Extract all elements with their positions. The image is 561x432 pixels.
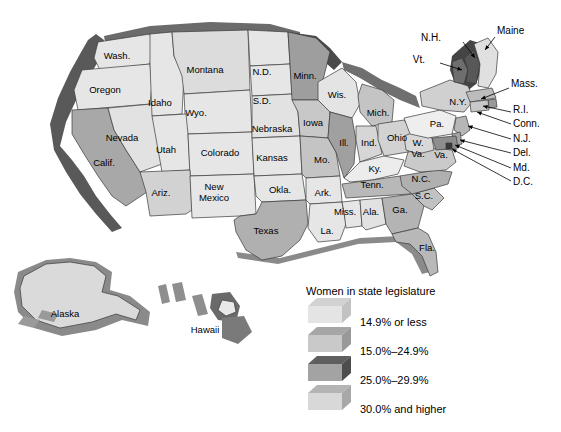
legend-swatch-front [308, 335, 342, 352]
state-label: La. [320, 225, 333, 236]
state-label: Ark. [315, 187, 332, 198]
state-label: Colorado [201, 147, 240, 158]
state-label: Utah [156, 144, 176, 155]
legend-swatch-front [308, 364, 342, 381]
state-label: N.D. [253, 66, 272, 77]
legend-entry: 25.0%–29.9% [308, 356, 429, 386]
callout-leader-line [455, 145, 511, 168]
legend-title: Women in state legislature [306, 285, 435, 297]
state-label: Tenn. [360, 179, 383, 190]
hawaii-island-5 [222, 316, 252, 344]
state-label: N.C. [412, 173, 431, 184]
legend-entry: 30.0% and higher [308, 385, 447, 415]
state-label: Ala. [363, 206, 379, 217]
callout-label: Mass. [511, 78, 538, 89]
state-label: Ill. [339, 137, 349, 148]
state-label: Mo. [314, 154, 330, 165]
callout-label: R.I. [513, 104, 529, 115]
callout-arrowhead [477, 112, 482, 116]
legend-entry: 14.9% or less [308, 298, 427, 328]
state-label: S.D. [253, 95, 271, 106]
legend-label: 15.0%–24.9% [360, 345, 429, 357]
state-label: Texas [254, 225, 279, 236]
state-label: Mich. [367, 107, 390, 118]
state-label: Oregon [89, 84, 121, 95]
state-label: Wis. [328, 89, 346, 100]
state-label: N.Y. [449, 96, 466, 107]
state-label: Ariz. [152, 187, 171, 198]
state-label-stacked: W.Va. [411, 137, 425, 159]
state-label: Ky. [368, 163, 381, 174]
callout-leader-line [452, 149, 511, 181]
state-label: Hawaii [191, 324, 220, 335]
legend-label: 14.9% or less [360, 316, 427, 328]
state-label: Alaska [51, 308, 80, 319]
state-label: Kansas [256, 152, 288, 163]
callout-leader-line [468, 126, 511, 139]
state-label: Nebraska [252, 123, 293, 134]
state-label: Ohio [387, 132, 407, 143]
callout-leader-line [460, 140, 511, 153]
hawaii-island-2 [172, 282, 186, 302]
hawaii-island-3 [192, 294, 208, 316]
map-legend: Women in state legislature 14.9% or less… [306, 285, 447, 415]
state-rhodeisland [488, 99, 497, 108]
callout-label: N.H. [421, 32, 441, 43]
callout-label: Del. [513, 147, 531, 158]
state-label: Miss. [334, 206, 356, 217]
legend-entry: 15.0%–24.9% [308, 327, 429, 357]
state-label-virginia: Va. [434, 149, 448, 160]
state-label: Montana [187, 64, 225, 75]
state-label: Minn. [293, 70, 316, 81]
state-label: Wyo. [185, 107, 207, 118]
state-label: Ga. [392, 204, 407, 215]
map-figure: Wash.OregonIdahoMontanaN.D.S.D.Minn.Wis.… [0, 0, 561, 432]
callout-label: N.J. [513, 133, 531, 144]
state-label: Ind. [361, 137, 377, 148]
callout-label: Maine [497, 25, 525, 36]
hawaii-island-1 [158, 284, 170, 304]
hawaii-inset [158, 282, 252, 344]
alaska-inset [14, 258, 150, 336]
state-label: S.C. [415, 190, 433, 201]
state-label: Okla. [269, 184, 291, 195]
callout-label: D.C. [513, 176, 533, 187]
callout-label: Vt. [413, 54, 425, 65]
state-label: Wash. [104, 50, 131, 61]
state-label: Iowa [303, 117, 324, 128]
callout-leader-line [477, 112, 511, 124]
us-choropleth-map: Wash.OregonIdahoMontanaN.D.S.D.Minn.Wis.… [0, 0, 561, 432]
state-northdakota [248, 30, 290, 66]
legend-entries: 14.9% or less15.0%–24.9%25.0%–29.9%30.0%… [308, 298, 447, 415]
legend-swatch-front [308, 306, 342, 323]
state-label: Fla. [419, 242, 435, 253]
legend-swatch-front [308, 393, 342, 410]
legend-label: 25.0%–29.9% [360, 374, 429, 386]
state-label: Calif. [93, 157, 115, 168]
state-montana [172, 30, 250, 94]
state-label: Pa. [430, 118, 444, 129]
legend-label: 30.0% and higher [360, 403, 447, 415]
state-label: Nevada [106, 132, 139, 143]
callout-label: Md. [513, 162, 530, 173]
callout-label: Conn. [513, 118, 540, 129]
state-label: Idaho [148, 97, 172, 108]
